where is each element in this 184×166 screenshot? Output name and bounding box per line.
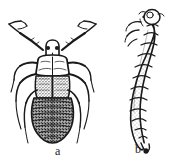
pronotum xyxy=(36,55,69,76)
figure-container: a b xyxy=(0,0,184,166)
illustration-canvas xyxy=(0,0,184,166)
panel-label-a: a xyxy=(55,145,60,157)
left-eye xyxy=(46,46,50,50)
wing-pads xyxy=(35,76,69,98)
right-eye xyxy=(55,46,59,50)
panel-label-b: b xyxy=(135,143,141,155)
